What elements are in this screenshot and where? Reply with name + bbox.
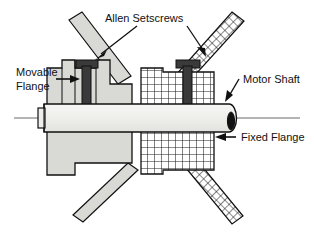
diagram-canvas: Allen Setscrews Movable Flange Motor Sha…: [0, 0, 314, 236]
coupling-diagram: Allen Setscrews Movable Flange Motor Sha…: [0, 0, 314, 236]
label-fixed-flange: Fixed Flange: [241, 131, 305, 143]
label-movable-flange-line1: Movable: [16, 66, 58, 78]
label-allen-setscrews: Allen Setscrews: [105, 12, 184, 24]
label-movable-flange-line2: Flange: [16, 80, 50, 92]
label-motor-shaft: Motor Shaft: [243, 73, 300, 85]
